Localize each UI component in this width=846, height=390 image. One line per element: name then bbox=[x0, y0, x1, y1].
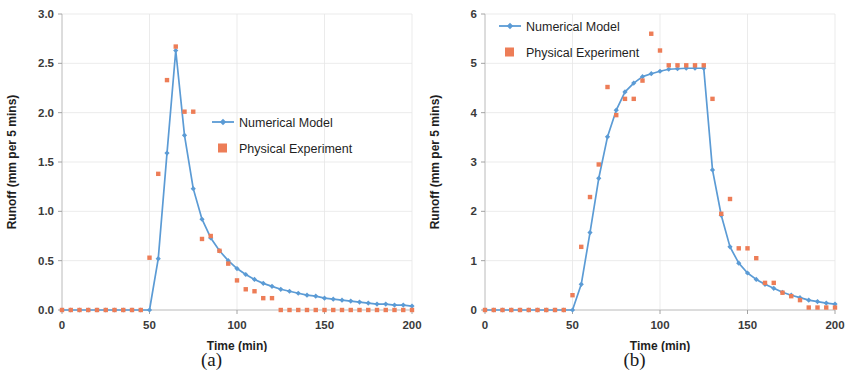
y-tick-label: 2 bbox=[471, 205, 477, 217]
physical-experiment-marker bbox=[772, 281, 776, 285]
x-axis-title: Time (min) bbox=[207, 339, 267, 352]
physical-experiment-marker bbox=[544, 308, 548, 312]
physical-experiment-marker bbox=[649, 32, 653, 36]
physical-experiment-marker bbox=[401, 308, 405, 312]
physical-experiment-marker bbox=[737, 246, 741, 250]
numerical-model-marker bbox=[199, 217, 204, 222]
x-tick-label: 100 bbox=[650, 319, 669, 331]
physical-experiment-marker bbox=[112, 308, 116, 312]
physical-experiment-marker bbox=[579, 245, 583, 249]
numerical-model-marker bbox=[657, 69, 662, 74]
numerical-model-marker bbox=[348, 299, 353, 304]
numerical-model-marker bbox=[287, 289, 292, 294]
physical-experiment-marker bbox=[667, 63, 671, 67]
physical-experiment-marker bbox=[623, 97, 627, 101]
physical-experiment-marker bbox=[553, 308, 557, 312]
numerical-model-marker bbox=[596, 176, 601, 181]
physical-experiment-marker bbox=[270, 296, 274, 300]
physical-experiment-marker bbox=[331, 308, 335, 312]
physical-experiment-marker bbox=[147, 256, 151, 260]
physical-experiment-marker bbox=[719, 212, 723, 216]
panel-b-plot: 0123456050100150200Time (min)Runoff (mm … bbox=[423, 0, 846, 352]
physical-experiment-marker bbox=[693, 63, 697, 67]
physical-experiment-marker bbox=[535, 308, 539, 312]
y-tick-label: 5 bbox=[471, 57, 478, 69]
numerical-model-marker bbox=[261, 281, 266, 286]
physical-experiment-marker bbox=[182, 109, 186, 113]
physical-experiment-marker bbox=[77, 308, 81, 312]
x-tick-label: 50 bbox=[566, 319, 579, 331]
physical-experiment-marker bbox=[728, 197, 732, 201]
chart-b-svg: 0123456050100150200Time (min)Runoff (mm … bbox=[423, 0, 846, 352]
legend-diamond-marker bbox=[220, 119, 226, 125]
panel-b: 0123456050100150200Time (min)Runoff (mm … bbox=[423, 0, 846, 390]
physical-experiment-marker bbox=[597, 162, 601, 166]
physical-experiment-marker bbox=[702, 63, 706, 67]
physical-experiment-marker bbox=[60, 308, 64, 312]
panel-a: 0.00.51.01.52.02.53.0050100150200Time (m… bbox=[0, 0, 423, 390]
physical-experiment-marker bbox=[95, 308, 99, 312]
physical-experiment-marker bbox=[322, 308, 326, 312]
physical-experiment-marker bbox=[235, 278, 239, 282]
physical-experiment-marker bbox=[833, 305, 837, 309]
physical-experiment-marker bbox=[509, 308, 513, 312]
physical-experiment-marker bbox=[252, 289, 256, 293]
physical-experiment-marker bbox=[807, 305, 811, 309]
physical-experiment-marker bbox=[614, 113, 618, 117]
physical-experiment-marker bbox=[261, 296, 265, 300]
physical-experiment-marker bbox=[789, 294, 793, 298]
physical-experiment-marker bbox=[314, 308, 318, 312]
numerical-model-marker bbox=[401, 302, 406, 307]
x-tick-label: 200 bbox=[402, 319, 421, 331]
chart-legend: Numerical ModelPhysical Experiment bbox=[499, 20, 640, 60]
physical-experiment-marker bbox=[191, 109, 195, 113]
physical-experiment-marker bbox=[815, 305, 819, 309]
physical-experiment-marker bbox=[632, 97, 636, 101]
physical-experiment-marker bbox=[562, 308, 566, 312]
physical-experiment-marker bbox=[226, 261, 230, 265]
panel-a-plot: 0.00.51.01.52.02.53.0050100150200Time (m… bbox=[0, 0, 423, 352]
numerical-model-marker bbox=[339, 298, 344, 303]
physical-experiment-marker bbox=[296, 308, 300, 312]
physical-experiment-marker bbox=[86, 308, 90, 312]
y-tick-label: 1.0 bbox=[38, 205, 54, 217]
numerical-model-marker bbox=[824, 300, 829, 305]
numerical-model-marker bbox=[147, 307, 152, 312]
physical-experiment-marker bbox=[675, 63, 679, 67]
y-tick-label: 3 bbox=[471, 156, 477, 168]
physical-experiment-marker bbox=[500, 308, 504, 312]
physical-experiment-marker bbox=[588, 195, 592, 199]
numerical-model-marker bbox=[587, 230, 592, 235]
physical-experiment-marker bbox=[824, 305, 828, 309]
physical-experiment-marker bbox=[217, 249, 221, 253]
numerical-model-marker bbox=[392, 302, 397, 307]
numerical-model-marker bbox=[278, 287, 283, 292]
physical-experiment-marker bbox=[209, 234, 213, 238]
physical-experiment-marker bbox=[745, 246, 749, 250]
legend-label: Numerical Model bbox=[526, 20, 620, 34]
physical-experiment-marker bbox=[305, 308, 309, 312]
physical-experiment-marker bbox=[244, 287, 248, 291]
legend-label: Physical Experiment bbox=[526, 46, 640, 60]
physical-experiment-marker bbox=[104, 308, 108, 312]
numerical-model-marker bbox=[182, 133, 187, 138]
x-tick-label: 0 bbox=[482, 319, 488, 331]
physical-experiment-marker bbox=[392, 308, 396, 312]
numerical-model-marker bbox=[614, 108, 619, 113]
legend-square-swatch bbox=[218, 144, 227, 153]
physical-experiment-marker bbox=[69, 308, 73, 312]
numerical-model-marker bbox=[570, 307, 575, 312]
y-tick-label: 1.5 bbox=[38, 156, 55, 168]
physical-experiment-marker bbox=[754, 256, 758, 260]
y-tick-label: 0.5 bbox=[38, 255, 55, 267]
physical-experiment-marker bbox=[763, 281, 767, 285]
panel-b-caption: (b) bbox=[623, 350, 645, 369]
physical-experiment-marker bbox=[410, 308, 414, 312]
numerical-model-marker bbox=[605, 134, 610, 139]
physical-experiment-marker bbox=[200, 237, 204, 241]
numerical-model-marker bbox=[374, 301, 379, 306]
physical-experiment-marker bbox=[287, 308, 291, 312]
physical-experiment-marker bbox=[384, 308, 388, 312]
numerical-model-marker bbox=[710, 167, 715, 172]
legend-square-swatch bbox=[505, 48, 514, 57]
